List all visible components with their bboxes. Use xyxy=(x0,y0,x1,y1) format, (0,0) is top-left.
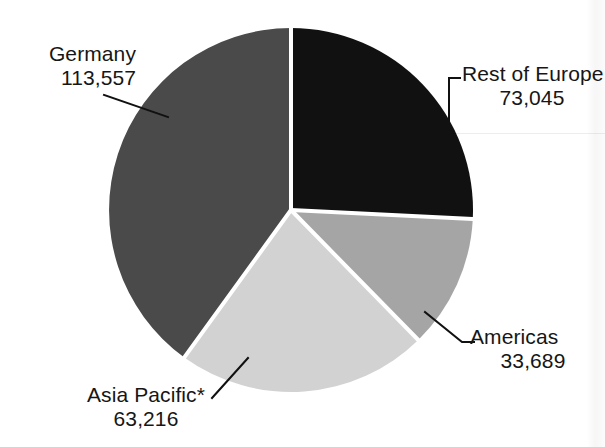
callout-germany-value: 113,557 xyxy=(4,66,136,90)
pie-slice-rest-of-europe[interactable] xyxy=(291,28,473,219)
callout-asia-pacific-label: Asia Pacific* xyxy=(62,383,230,407)
callout-rest-of-europe-label: Rest of Europe xyxy=(462,62,602,86)
callout-rest-of-europe-value: 73,045 xyxy=(462,86,602,110)
callout-asia-pacific: Asia Pacific* 63,216 xyxy=(62,383,230,430)
pie-chart-page: Germany 113,557 Rest of Europe 73,045 Am… xyxy=(0,0,605,447)
callout-germany: Germany 113,557 xyxy=(4,42,136,89)
callout-americas: Americas 33,689 xyxy=(470,325,596,372)
callout-asia-pacific-value: 63,216 xyxy=(62,407,230,431)
callout-americas-label: Americas xyxy=(470,325,596,349)
callout-germany-label: Germany xyxy=(4,42,136,66)
callout-americas-value: 33,689 xyxy=(470,349,596,373)
callout-rest-of-europe: Rest of Europe 73,045 xyxy=(462,62,602,109)
